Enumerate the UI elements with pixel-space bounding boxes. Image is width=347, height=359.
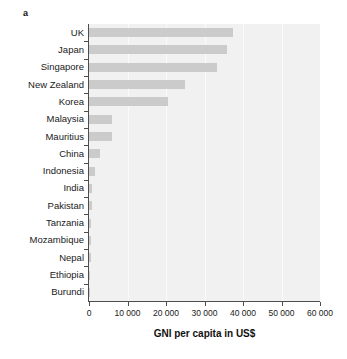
y-axis-tick-label: Indonesia <box>2 166 84 176</box>
y-axis-tick <box>84 76 89 77</box>
x-axis-tick <box>128 302 129 306</box>
bar <box>89 28 233 37</box>
bar-row <box>89 97 320 106</box>
bar <box>89 80 185 89</box>
bar-row <box>89 167 320 176</box>
bar <box>89 63 217 72</box>
x-axis-tick <box>282 302 283 306</box>
x-axis-tick <box>320 302 321 306</box>
bar-row <box>89 63 320 72</box>
x-axis-tick-label: 40 000 <box>230 308 256 318</box>
y-axis-tick-label: Tanzania <box>2 218 84 228</box>
y-axis-tick-label: New Zealand <box>2 80 84 90</box>
bar <box>89 97 168 106</box>
y-axis-tick <box>84 145 89 146</box>
y-axis-tick-label: Ethiopia <box>2 270 84 280</box>
bar <box>89 115 112 124</box>
bar <box>89 184 92 193</box>
bar <box>89 132 112 141</box>
y-axis-tick-label: Pakistan <box>2 201 84 211</box>
bar <box>89 253 91 262</box>
bar <box>89 149 100 158</box>
x-axis-tick <box>166 302 167 306</box>
y-axis-tick <box>84 266 89 267</box>
y-axis-tick-label: Korea <box>2 97 84 107</box>
y-axis-tick <box>84 163 89 164</box>
y-axis-tick-label: Singapore <box>2 62 84 72</box>
bar <box>89 201 92 210</box>
y-axis-tick <box>84 284 89 285</box>
bar-row <box>89 149 320 158</box>
bar-row <box>89 288 320 297</box>
bar-row <box>89 132 320 141</box>
x-axis-tick <box>243 302 244 306</box>
y-axis-tick-label: India <box>2 183 84 193</box>
x-axis-title: GNI per capita in US$ <box>89 328 320 339</box>
y-axis-tick-label: UK <box>2 28 84 38</box>
bar <box>89 271 90 280</box>
bar <box>89 236 91 245</box>
x-axis-tick-label: 10 000 <box>115 308 141 318</box>
x-axis-tick <box>89 302 90 306</box>
y-axis-tick <box>84 111 89 112</box>
y-axis-tick <box>84 59 89 60</box>
bar-row <box>89 80 320 89</box>
x-axis-tick-label: 60 000 <box>307 308 333 318</box>
bar-row <box>89 219 320 228</box>
y-axis-tick-label: Nepal <box>2 253 84 263</box>
figure-container: a UKJapanSingaporeNew ZealandKoreaMalays… <box>0 0 347 359</box>
y-axis-tick-label: Burundi <box>2 287 84 297</box>
plot-area <box>89 24 320 301</box>
y-axis-tick <box>84 232 89 233</box>
y-axis-tick <box>84 197 89 198</box>
y-axis-tick-label: Malaysia <box>2 114 84 124</box>
bar-row <box>89 271 320 280</box>
y-axis-tick-label: China <box>2 149 84 159</box>
x-axis-tick-label: 0 <box>87 308 92 318</box>
bar-row <box>89 253 320 262</box>
x-axis-tick-label: 20 000 <box>153 308 179 318</box>
x-axis-tick-label: 50 000 <box>269 308 295 318</box>
x-axis-tick-label: 30 000 <box>192 308 218 318</box>
bar <box>89 167 95 176</box>
bar-row <box>89 28 320 37</box>
y-axis-tick-label: Mauritius <box>2 132 84 142</box>
bar-row <box>89 236 320 245</box>
bar-row <box>89 201 320 210</box>
y-axis-tick <box>84 41 89 42</box>
y-axis-tick-label: Japan <box>2 45 84 55</box>
bar-row <box>89 45 320 54</box>
y-axis-tick <box>84 93 89 94</box>
y-axis-tick-label: Mozambique <box>2 235 84 245</box>
y-axis-tick <box>84 180 89 181</box>
y-axis-tick <box>84 128 89 129</box>
bar-row <box>89 115 320 124</box>
x-axis-tick <box>205 302 206 306</box>
bar <box>89 45 227 54</box>
bar <box>89 288 90 297</box>
y-axis-tick <box>84 214 89 215</box>
bar <box>89 219 91 228</box>
y-axis-tick <box>84 249 89 250</box>
bar-row <box>89 184 320 193</box>
y-axis-tick-labels: UKJapanSingaporeNew ZealandKoreaMalaysia… <box>0 0 84 359</box>
